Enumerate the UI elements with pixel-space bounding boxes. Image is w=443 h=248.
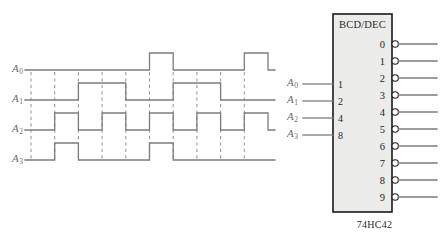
ic-function-label: BCD/DEC: [339, 19, 386, 30]
output-label-8: 8: [380, 175, 385, 186]
output-label-2: 2: [380, 73, 385, 84]
input-signal-sub-0: 0: [294, 81, 298, 90]
output-bubble-3: [392, 92, 398, 98]
input-signal-label-0: A0: [286, 76, 298, 91]
diagram-svg: A0A1A2A3 BCD/DEC 74HC42 A01A12A24A38 012…: [0, 0, 443, 248]
input-signal-label-3: A3: [286, 127, 298, 142]
timing-label-A0: A0: [11, 62, 23, 77]
output-bubble-8: [392, 177, 398, 183]
input-weight-2: 2: [338, 96, 343, 107]
timing-label-A3: A3: [11, 152, 23, 167]
input-signal-sub-2: 2: [294, 115, 298, 124]
timing-label-A2: A2: [11, 122, 23, 137]
input-weight-4: 4: [338, 113, 343, 124]
timing-label-sub-A1: 1: [19, 97, 23, 106]
output-label-1: 1: [380, 56, 385, 67]
output-label-0: 0: [380, 39, 385, 50]
timing-gridlines: [31, 72, 244, 160]
waveform-A3: [25, 143, 275, 160]
output-label-6: 6: [380, 141, 385, 152]
timing-label-sub-A2: 2: [19, 127, 23, 136]
diagram-canvas: A0A1A2A3 BCD/DEC 74HC42 A01A12A24A38 012…: [0, 0, 443, 248]
output-bubble-0: [392, 41, 398, 47]
output-bubble-9: [392, 194, 398, 200]
output-bubble-7: [392, 160, 398, 166]
output-bubble-5: [392, 126, 398, 132]
input-signal-label-1: A1: [286, 93, 298, 108]
timing-label-sub-A3: 3: [19, 157, 23, 166]
output-label-7: 7: [380, 158, 385, 169]
output-bubble-1: [392, 58, 398, 64]
input-signal-sub-3: 3: [294, 132, 298, 141]
output-label-4: 4: [380, 107, 386, 118]
output-bubble-6: [392, 143, 398, 149]
output-label-5: 5: [380, 124, 385, 135]
waveform-A0: [25, 53, 275, 70]
timing-label-A1: A1: [11, 92, 23, 107]
output-label-3: 3: [380, 90, 385, 101]
timing-label-sub-A0: 0: [19, 67, 23, 76]
input-signal-sub-1: 1: [294, 98, 298, 107]
ic-part-number-label: 74HC42: [357, 219, 393, 230]
input-signal-label-2: A2: [286, 110, 298, 125]
output-bubble-2: [392, 75, 398, 81]
input-weight-1: 1: [338, 79, 343, 90]
waveform-A2: [25, 113, 275, 130]
timing-signal-labels: A0A1A2A3: [11, 62, 23, 167]
input-weight-8: 8: [338, 130, 343, 141]
output-bubble-4: [392, 109, 398, 115]
output-label-9: 9: [380, 192, 385, 203]
